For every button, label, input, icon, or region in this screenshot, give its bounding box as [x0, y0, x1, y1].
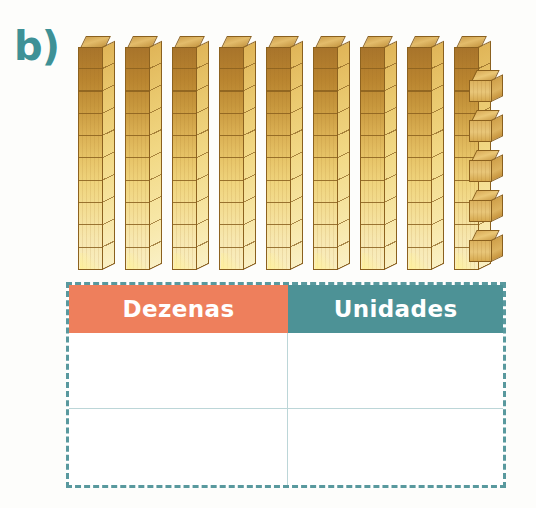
- cell-unidades-row2[interactable]: [288, 409, 503, 485]
- tens-rod-front-face: [407, 47, 432, 270]
- tens-rod-side-face: [337, 41, 350, 270]
- tens-rod-side-face: [243, 41, 256, 270]
- unit-cube-side-face: [491, 234, 503, 262]
- tens-rod-front-face: [172, 47, 197, 270]
- cell-dezenas-row1[interactable]: [69, 333, 288, 408]
- tens-rod-icon: [266, 36, 304, 272]
- unit-cube-side-face: [491, 154, 503, 182]
- tens-rod-icon: [407, 36, 445, 272]
- tens-rod-front-face: [313, 47, 338, 270]
- unit-cube-front-face: [469, 160, 492, 182]
- unit-cube-front-face: [469, 120, 492, 142]
- tens-rod-side-face: [149, 41, 162, 270]
- unit-cube-icon: [469, 150, 503, 184]
- unit-cube-front-face: [469, 200, 492, 222]
- cell-unidades-row1[interactable]: [288, 333, 503, 408]
- tens-rod-side-face: [196, 41, 209, 270]
- tens-rod-front-face: [360, 47, 385, 270]
- tens-rod-icon: [172, 36, 210, 272]
- tens-rod-side-face: [102, 41, 115, 270]
- tens-rod-icon: [360, 36, 398, 272]
- tens-rod-icon: [219, 36, 257, 272]
- tens-rod-side-face: [384, 41, 397, 270]
- tens-rod-icon: [125, 36, 163, 272]
- unit-cube-icon: [469, 190, 503, 224]
- tens-rod-icon: [313, 36, 351, 272]
- unit-cube-side-face: [491, 114, 503, 142]
- unit-cube-front-face: [469, 240, 492, 262]
- table-body: [69, 333, 503, 485]
- column-header-dezenas: Dezenas: [69, 285, 288, 333]
- base-ten-blocks-illustration: [0, 0, 536, 285]
- unit-cube-icon: [469, 70, 503, 104]
- unit-cube-side-face: [491, 74, 503, 102]
- tens-rod-front-face: [266, 47, 291, 270]
- tens-rod-icon: [78, 36, 116, 272]
- table-row: [69, 333, 503, 409]
- unit-cube-side-face: [491, 194, 503, 222]
- tens-rod-side-face: [290, 41, 303, 270]
- table-header-row: Dezenas Unidades: [69, 285, 503, 333]
- unit-cube-front-face: [469, 80, 492, 102]
- unit-cube-icon: [469, 230, 503, 264]
- tens-rod-side-face: [431, 41, 444, 270]
- column-header-unidades: Unidades: [288, 285, 503, 333]
- cell-dezenas-row2[interactable]: [69, 409, 288, 485]
- table-row: [69, 409, 503, 485]
- tens-rod-front-face: [78, 47, 103, 270]
- tens-rod-front-face: [219, 47, 244, 270]
- unit-cube-icon: [469, 110, 503, 144]
- place-value-table: Dezenas Unidades: [66, 282, 506, 488]
- tens-rod-front-face: [125, 47, 150, 270]
